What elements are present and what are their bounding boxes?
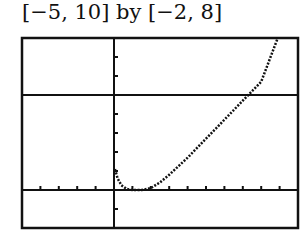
function-curve xyxy=(115,38,278,190)
plot-frame xyxy=(22,38,298,228)
graph-screen xyxy=(0,0,306,236)
